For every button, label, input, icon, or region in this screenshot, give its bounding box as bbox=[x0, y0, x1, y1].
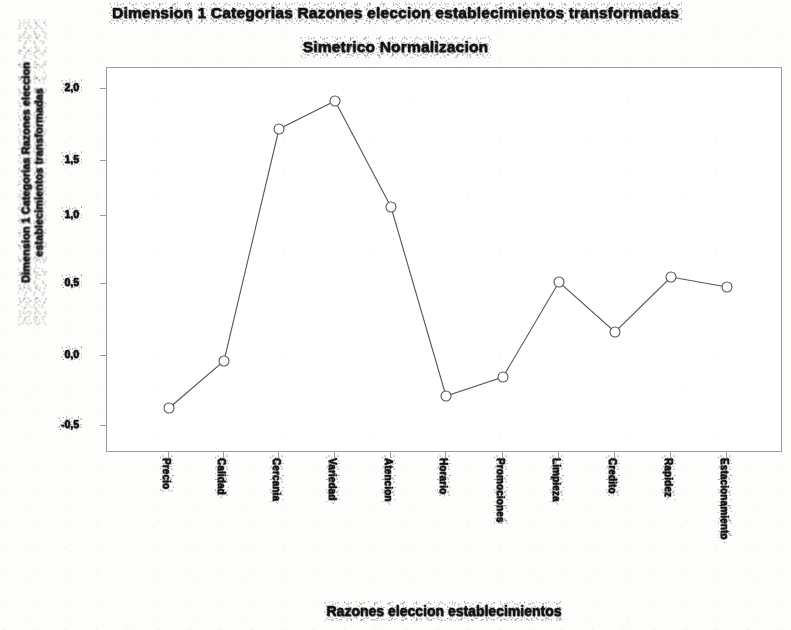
y-axis-tick-label-text: 1,5 bbox=[64, 153, 79, 165]
y-axis-tick-label-text: 0,5 bbox=[64, 276, 79, 288]
x-axis-tick-label: Precio bbox=[161, 458, 172, 489]
y-axis-tick-label: 2,0 bbox=[35, 81, 79, 93]
x-axis-title-text: Razones eleccion establecimientos bbox=[327, 603, 562, 619]
data-point-marker bbox=[441, 391, 451, 401]
data-point-marker bbox=[274, 124, 284, 134]
x-axis-tick-label: Horario bbox=[438, 458, 449, 494]
line-series-svg bbox=[107, 68, 783, 453]
y-axis-tick-label: 0,0 bbox=[35, 348, 79, 360]
y-axis-tick-label-text: 1,0 bbox=[64, 208, 79, 220]
x-axis-tick-mark bbox=[558, 452, 559, 457]
x-axis-tick-mark bbox=[390, 452, 391, 457]
x-axis-tick-label: Cercania bbox=[271, 458, 282, 501]
x-axis-tick-label-text: Variedad bbox=[327, 458, 338, 501]
plot-area bbox=[106, 67, 782, 452]
y-axis-tick-label: 1,5 bbox=[35, 153, 79, 165]
x-axis-tick-mark bbox=[334, 452, 335, 457]
data-point-marker bbox=[330, 96, 340, 106]
x-axis-tick-mark bbox=[726, 452, 727, 457]
x-axis-title: Razones eleccion establecimientos bbox=[106, 603, 782, 619]
y-axis-tick-label-text: 2,0 bbox=[64, 81, 79, 93]
x-axis-tick-label-text: Estacionamiento bbox=[719, 458, 730, 540]
chart-title-primary-text: Dimension 1 Categorias Razones eleccion … bbox=[112, 4, 679, 22]
x-axis-tick-label-text: Rapidez bbox=[663, 458, 674, 497]
x-axis-tick-label: Credito bbox=[607, 458, 618, 494]
data-line bbox=[169, 101, 727, 408]
y-axis-tick-label-text: -0,5 bbox=[61, 418, 79, 430]
x-axis-tick-label: Estacionamiento bbox=[719, 458, 730, 540]
x-axis-tick-label: Calidad bbox=[216, 458, 227, 495]
data-point-marker bbox=[666, 272, 676, 282]
x-axis-tick-label-text: Atencion bbox=[383, 458, 394, 502]
x-axis-tick-label: Variedad bbox=[327, 458, 338, 501]
x-axis-tick-mark bbox=[223, 452, 224, 457]
x-axis-tick-label-text: Calidad bbox=[216, 458, 227, 495]
chart-subtitle-text: Simetrico Normalizacion bbox=[303, 38, 488, 56]
x-axis-tick-label-text: Cercania bbox=[271, 458, 282, 501]
x-axis-tick-label: Rapidez bbox=[663, 458, 674, 497]
x-axis-tick-mark bbox=[168, 452, 169, 457]
x-axis-tick-mark bbox=[445, 452, 446, 457]
x-axis-tick-label: Promociones bbox=[495, 458, 506, 522]
y-axis-tick-label: 1,0 bbox=[35, 208, 79, 220]
x-axis-tick-mark bbox=[278, 452, 279, 457]
chart-subtitle: Simetrico Normalizacion bbox=[0, 38, 791, 56]
x-axis-tick-mark bbox=[670, 452, 671, 457]
data-point-marker bbox=[498, 372, 508, 382]
x-axis-tick-mark bbox=[502, 452, 503, 457]
data-point-marker bbox=[219, 356, 229, 366]
y-axis-tick-label: -0,5 bbox=[35, 418, 79, 430]
data-point-marker bbox=[554, 277, 564, 287]
data-point-marker bbox=[610, 327, 620, 337]
x-axis-tick-label: Limpieza bbox=[551, 458, 562, 502]
x-axis-tick-label-text: Promociones bbox=[495, 458, 506, 522]
x-axis-tick-label-text: Limpieza bbox=[551, 458, 562, 502]
data-point-marker bbox=[722, 282, 732, 292]
x-axis-tick-label-text: Horario bbox=[438, 458, 449, 494]
data-point-marker bbox=[164, 403, 174, 413]
x-axis-tick-label-text: Credito bbox=[607, 458, 618, 494]
x-axis-tick-mark bbox=[614, 452, 615, 457]
y-axis-tick-label: 0,5 bbox=[35, 276, 79, 288]
x-axis-tick-label: Atencion bbox=[383, 458, 394, 502]
y-axis-tick-label-text: 0,0 bbox=[64, 348, 79, 360]
chart-title-primary: Dimension 1 Categorias Razones eleccion … bbox=[0, 4, 791, 22]
x-axis-tick-label-text: Precio bbox=[161, 458, 172, 489]
data-point-marker bbox=[386, 202, 396, 212]
